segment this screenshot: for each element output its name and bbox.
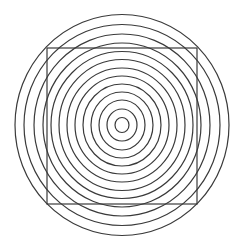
ring-5: [83, 84, 161, 166]
concentric-circles-figure: [0, 0, 241, 249]
figure-svg: [0, 0, 241, 249]
ring-4: [91, 92, 153, 158]
ring-8: [59, 60, 185, 191]
ring-12: [24, 25, 220, 226]
ring-1: [115, 118, 129, 133]
ring-3: [99, 100, 145, 150]
ring-2: [107, 109, 137, 141]
ring-11: [34, 34, 210, 216]
overlay-square: [47, 48, 197, 204]
ring-9: [51, 52, 193, 199]
ring-6: [75, 76, 169, 174]
